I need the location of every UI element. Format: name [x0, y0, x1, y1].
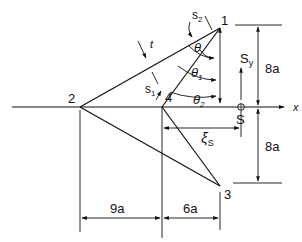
left-width-label: 9a — [110, 201, 125, 216]
theta-label: θ — [194, 40, 201, 55]
upper-height-label: 8a — [265, 61, 280, 76]
point-1-label: 1 — [221, 13, 228, 28]
s1-arrow — [156, 91, 161, 100]
s2-arrow — [189, 22, 192, 37]
sy-label: Sy — [240, 51, 254, 68]
theta2-label: θ2 — [193, 92, 205, 109]
section-diagram: 1 2 3 4 s2 t s1 θ θ1 θ2 Sy S x ξS 8a 8a … — [0, 0, 302, 242]
theta1-label: θ1 — [191, 65, 203, 82]
lower-height-label: 8a — [265, 139, 280, 154]
t-label: t — [150, 38, 154, 50]
point-4-label: 4 — [165, 90, 172, 105]
t-arrow — [138, 41, 146, 58]
shear-center-symbol — [238, 104, 245, 111]
point-3-label: 3 — [224, 187, 231, 202]
s2-label: s2 — [192, 8, 203, 24]
s1-label: s1 — [145, 82, 156, 98]
shear-center-label: S — [236, 112, 245, 127]
right-width-label: 6a — [183, 201, 198, 216]
wall-2-3 — [80, 107, 220, 186]
t-tick — [152, 72, 158, 84]
point-2-label: 2 — [68, 91, 75, 106]
s2-tick — [205, 16, 212, 30]
xi-s-label: ξS — [201, 129, 214, 148]
diagram-canvas: 1 2 3 4 s2 t s1 θ θ1 θ2 Sy S x ξS 8a 8a … — [0, 0, 302, 242]
x-axis-label: x — [292, 101, 299, 113]
